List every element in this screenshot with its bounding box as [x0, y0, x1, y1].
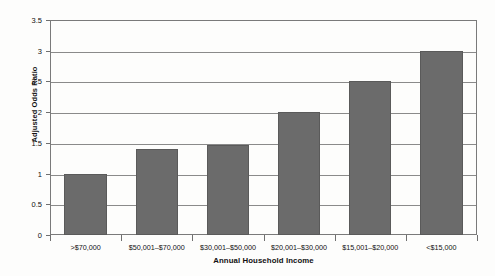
bar — [349, 81, 391, 235]
y-axis-tick-label: 1.5 — [2, 138, 42, 147]
x-axis-tick-mark — [335, 235, 336, 241]
y-axis-tick-label: 3.5 — [2, 16, 42, 25]
x-axis-tick-mark — [50, 235, 51, 241]
x-axis-tick-mark — [264, 235, 265, 241]
bars-group — [50, 20, 477, 235]
y-axis-tick-label: 3 — [2, 46, 42, 55]
x-axis-tick-mark — [406, 235, 407, 241]
x-axis-tick-label: $50,001–$70,000 — [129, 243, 185, 252]
y-axis-tick-label: 2 — [2, 108, 42, 117]
bar — [420, 51, 462, 235]
y-axis-tick-label: 2.5 — [2, 77, 42, 86]
bar — [136, 149, 178, 235]
x-axis-title: Annual Household Income — [50, 256, 477, 265]
bar — [207, 145, 249, 235]
x-axis-tick-label: $30,001–$50,000 — [200, 243, 256, 252]
x-axis-tick-mark — [121, 235, 122, 241]
y-axis-tick-label: 1 — [2, 169, 42, 178]
x-axis-tick-label: <$15,000 — [426, 243, 456, 252]
y-axis-tick-label: 0 — [2, 231, 42, 240]
x-axis-tick-label: $20,001–$30,000 — [271, 243, 327, 252]
y-axis-tick-label: 0.5 — [2, 200, 42, 209]
x-axis-tick-label: $15,001–$20,000 — [342, 243, 398, 252]
bar — [278, 112, 320, 235]
x-axis-tick-mark — [477, 235, 478, 241]
x-axis-tick-label: >$70,000 — [70, 243, 100, 252]
x-axis-tick-mark — [192, 235, 193, 241]
bar — [64, 174, 106, 235]
bar-chart: Adjusted Odds Ratio 00.511.522.533.5 >$7… — [0, 0, 495, 276]
